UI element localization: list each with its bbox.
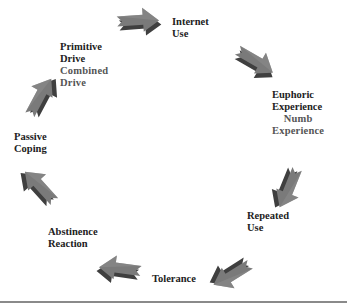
arrow-internet-to-euphoric bbox=[226, 38, 286, 86]
arrow-primitive-to-internet bbox=[112, 4, 166, 38]
arrow-passive-to-primitive bbox=[18, 70, 64, 122]
stage-secondary-label: Numb bbox=[272, 113, 324, 125]
stage-primitive-drive: Primitive Drive Combined Drive bbox=[60, 41, 108, 89]
stage-label: Abstinence bbox=[48, 226, 98, 238]
stage-label: Euphoric bbox=[272, 89, 324, 101]
stage-passive-coping: Passive Coping bbox=[14, 131, 47, 155]
stage-label: Drive bbox=[60, 53, 108, 65]
stage-secondary-label: Combined bbox=[60, 65, 108, 77]
stage-label: Experience bbox=[272, 101, 324, 113]
arrow-abstinence-to-passive bbox=[14, 160, 64, 212]
stage-euphoric-experience: Euphoric Experience Numb Experience bbox=[272, 89, 324, 137]
arrow-tolerance-to-abstinence bbox=[92, 250, 146, 288]
stage-internet-use: Internet Use bbox=[172, 16, 209, 40]
stage-label: Tolerance bbox=[152, 273, 196, 285]
stage-abstinence-reaction: Abstinence Reaction bbox=[48, 226, 98, 250]
stage-label: Repeated bbox=[247, 210, 289, 222]
stage-label: Use bbox=[247, 222, 289, 234]
stage-repeated-use: Repeated Use bbox=[247, 210, 289, 234]
stage-secondary-label: Drive bbox=[60, 77, 108, 89]
stage-tolerance: Tolerance bbox=[152, 273, 196, 285]
bottom-divider-line bbox=[0, 301, 347, 303]
arrow-repeated-to-tolerance bbox=[206, 254, 256, 296]
stage-label: Internet bbox=[172, 16, 209, 28]
stage-label: Passive bbox=[14, 131, 47, 143]
stage-label: Coping bbox=[14, 143, 47, 155]
stage-label: Use bbox=[172, 28, 209, 40]
stage-label: Reaction bbox=[48, 238, 98, 250]
stage-label: Primitive bbox=[60, 41, 108, 53]
stage-secondary-label: Experience bbox=[272, 125, 324, 137]
